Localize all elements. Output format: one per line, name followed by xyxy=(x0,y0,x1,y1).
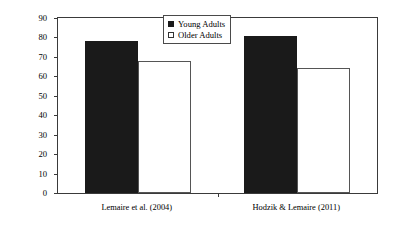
legend-item-young-adults: Young Adults xyxy=(168,18,225,29)
y-axis-tick-mark xyxy=(54,174,58,175)
bar-young-adults-group-0 xyxy=(85,41,138,193)
y-axis-tick-label: 40 xyxy=(21,111,47,120)
y-axis-tick-mark xyxy=(54,57,58,58)
y-axis-tick-mark xyxy=(54,18,58,19)
open-square-icon xyxy=(168,32,174,38)
bar-older-adults-group-0 xyxy=(138,61,191,193)
y-axis-tick-label: 90 xyxy=(21,14,47,23)
y-axis-tick-label: 50 xyxy=(21,91,47,100)
y-axis-tick-label: 10 xyxy=(21,169,47,178)
legend-label-older-adults: Older Adults xyxy=(178,30,222,40)
y-axis-tick-label: 70 xyxy=(21,53,47,62)
y-axis-tick-label: 80 xyxy=(21,33,47,42)
y-axis-tick-label: 30 xyxy=(21,130,47,139)
legend-item-older-adults: Older Adults xyxy=(168,29,225,40)
y-axis-tick-mark xyxy=(54,115,58,116)
x-axis-category-label-1: Hodzik & Lemaire (2011) xyxy=(196,203,396,213)
y-axis-tick-mark xyxy=(54,37,58,38)
y-axis-tick-mark xyxy=(54,135,58,136)
bar-chart-figure: Percentages of Best Strategy Selection 0… xyxy=(0,0,402,234)
bar-older-adults-group-1 xyxy=(297,68,350,193)
y-axis-tick-mark xyxy=(54,76,58,77)
x-axis-category-separator xyxy=(218,193,219,197)
filled-square-icon xyxy=(168,21,174,27)
y-axis-tick-label: 60 xyxy=(21,72,47,81)
bar-young-adults-group-1 xyxy=(244,36,297,193)
y-axis-tick-label: 0 xyxy=(21,189,47,198)
chart-legend: Young Adults Older Adults xyxy=(163,15,231,44)
y-axis-tick-mark xyxy=(54,96,58,97)
y-axis-tick-mark xyxy=(54,193,58,194)
legend-label-young-adults: Young Adults xyxy=(178,19,225,29)
y-axis-tick-mark xyxy=(54,154,58,155)
y-axis-tick-label: 20 xyxy=(21,150,47,159)
